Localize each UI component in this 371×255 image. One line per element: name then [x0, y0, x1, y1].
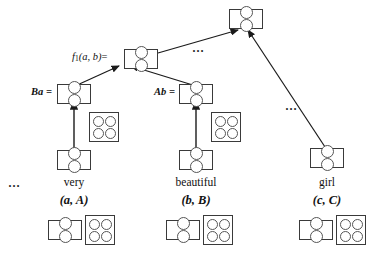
cell: [135, 59, 148, 72]
node-beautiful-vector[interactable]: [179, 150, 213, 170]
node-bottom-beautiful-vector[interactable]: [166, 220, 200, 240]
cell: [89, 219, 100, 230]
ellipsis-near-girl-edge: …: [285, 100, 298, 112]
cell: [352, 219, 363, 230]
cell: [321, 145, 334, 158]
leaf-pair-girl: (c, C): [313, 194, 341, 207]
cell: [219, 231, 230, 242]
cell: [93, 116, 104, 127]
node-ab[interactable]: [179, 84, 213, 104]
cell: [101, 231, 112, 242]
node-f1[interactable]: [124, 49, 158, 69]
ellipsis-left-of-very: …: [8, 177, 21, 189]
cell: [227, 128, 238, 139]
cell: [207, 219, 218, 230]
cell: [105, 116, 116, 127]
node-girl-vector[interactable]: [310, 148, 344, 168]
cell: [215, 128, 226, 139]
leaf-pair-beautiful: (b, B): [181, 194, 210, 207]
cell: [135, 46, 148, 59]
cell: [177, 230, 190, 243]
cell: [340, 219, 351, 230]
cell: [352, 231, 363, 242]
cell: [68, 81, 81, 94]
edge-girl-to-root: [248, 30, 327, 150]
node-very-vector[interactable]: [57, 150, 91, 170]
label-ab: Ab =: [154, 87, 175, 98]
node-ba[interactable]: [57, 84, 91, 104]
cell: [105, 128, 116, 139]
leaf-word-girl: girl: [319, 177, 335, 189]
function-args: (a, b): [79, 51, 102, 62]
cell: [219, 219, 230, 230]
ellipsis-near-root-edge: …: [192, 42, 205, 54]
node-bottom-beautiful-matrix[interactable]: [203, 215, 233, 245]
cell: [227, 116, 238, 127]
leaf-pair-very: (a, A): [60, 194, 89, 207]
cell: [240, 6, 253, 19]
diagram-canvas: f1(a, b)= Ba = Ab = very (a, A) beautif: [0, 0, 371, 255]
cell: [240, 19, 253, 32]
cell: [190, 81, 203, 94]
function-equals: =: [101, 51, 107, 62]
cell: [68, 160, 81, 173]
cell: [190, 94, 203, 107]
node-bottom-girl-vector[interactable]: [299, 220, 333, 240]
node-beautiful-matrix[interactable]: [211, 112, 241, 142]
node-very-matrix[interactable]: [89, 112, 119, 142]
cell: [68, 147, 81, 160]
cell: [68, 94, 81, 107]
cell: [190, 147, 203, 160]
node-bottom-girl-matrix[interactable]: [336, 215, 366, 245]
cell: [59, 217, 72, 230]
cell: [215, 116, 226, 127]
cell: [340, 231, 351, 242]
cell: [310, 230, 323, 243]
leaf-word-beautiful: beautiful: [176, 177, 217, 189]
cell: [177, 217, 190, 230]
node-root[interactable]: [229, 9, 263, 29]
cell: [207, 231, 218, 242]
cell: [101, 219, 112, 230]
node-bottom-very-matrix[interactable]: [85, 215, 115, 245]
node-bottom-very-vector[interactable]: [48, 220, 82, 240]
cell: [310, 217, 323, 230]
leaf-word-very: very: [64, 177, 84, 189]
cell: [93, 128, 104, 139]
cell: [59, 230, 72, 243]
cell: [89, 231, 100, 242]
cell: [321, 158, 334, 171]
cell: [190, 160, 203, 173]
edge-ba-to-f1: [75, 66, 119, 86]
label-root-function: f1(a, b)=: [72, 52, 107, 63]
label-ba: Ba =: [31, 87, 52, 98]
